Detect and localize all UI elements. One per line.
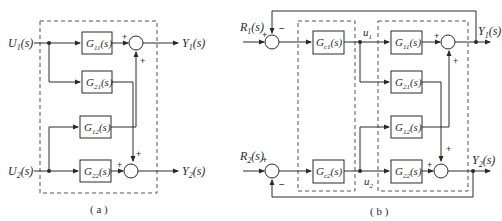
block-gc2-label: Gc2(s) xyxy=(316,165,343,180)
block-g21-b-label: G21(s) xyxy=(395,76,422,91)
error-sum-2 xyxy=(265,164,279,178)
sign-top-left-a: + xyxy=(122,32,127,42)
labels-b: R1(s) R2(s) Y1(s) Y2(s) Gc1(s) Gc2(s) u1… xyxy=(239,20,501,218)
sign-sum1-ref: + xyxy=(262,30,267,40)
sum-junction-top-a xyxy=(129,36,143,50)
signal-u2-label: u2 xyxy=(364,175,374,190)
ref-r2-label: R2(s) xyxy=(239,149,264,165)
output-y1-label: Y1(s) xyxy=(182,36,205,52)
output-y2-label: Y2(s) xyxy=(182,164,205,180)
output-y2-b-label: Y2(s) xyxy=(472,153,495,169)
block-diagrams: U1(s) U2(s) Y1(s) Y2(s) G11(s) G21(s) G1… xyxy=(0,0,502,221)
input-u1-label: U1(s) xyxy=(8,36,33,52)
sign-bottom-left-a: + xyxy=(117,160,122,170)
sign-sum2-ref: + xyxy=(262,155,267,165)
block-g11-b-label: G11(s) xyxy=(395,36,421,51)
block-g11-a-label: G11(s) xyxy=(86,37,112,52)
block-g12-a-label: G12(s) xyxy=(84,121,111,136)
sign-out2-top: + xyxy=(446,144,451,154)
ref-r1-label: R1(s) xyxy=(239,20,264,36)
sign-out1-bottom: + xyxy=(453,56,458,66)
sign-out2-left: + xyxy=(427,160,432,170)
sign-top-bottom-a: + xyxy=(140,56,145,66)
block-g12-b-label: G12(s) xyxy=(395,121,422,136)
sum-junction-top-b xyxy=(441,35,455,49)
block-g21-a-label: G21(s) xyxy=(86,76,113,91)
labels-a: U1(s) U2(s) Y1(s) Y2(s) G11(s) G21(s) G1… xyxy=(8,32,205,216)
block-g22-b-label: G22(s) xyxy=(395,165,422,180)
sign-bottom-top-a: + xyxy=(136,149,141,159)
caption-a: ( a ) xyxy=(90,203,108,216)
caption-b: ( b ) xyxy=(370,205,389,218)
block-g22-a-label: G22(s) xyxy=(84,165,111,180)
sum-junction-bottom-b xyxy=(434,164,448,178)
sign-sum1-fb: − xyxy=(279,23,285,34)
block-gc1-label: Gc1(s) xyxy=(316,36,343,51)
signal-u1-label: u1 xyxy=(363,26,372,41)
sign-out1-left: + xyxy=(434,31,439,41)
sign-sum2-fb: − xyxy=(279,179,285,190)
sum-junction-bottom-a xyxy=(124,164,138,178)
input-u2-label: U2(s) xyxy=(8,164,33,180)
output-y1-b-label: Y1(s) xyxy=(478,24,501,40)
diagram-b xyxy=(243,11,490,197)
